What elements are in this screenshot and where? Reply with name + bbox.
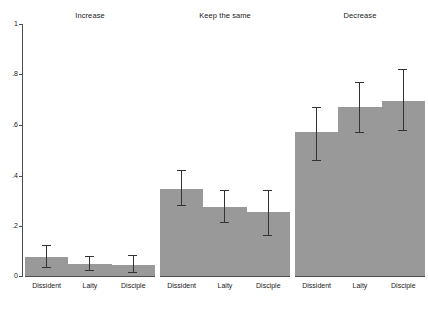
errorbar-cap-top-keep-the-same-disciple [263,190,272,191]
x-label-keep-the-same-dissident: Dissident [160,282,203,289]
errorbar-cap-top-increase-dissident [42,245,51,246]
y-tick-label-04: .4 [0,172,18,179]
errorbar-keep-the-same-disciple [268,190,269,235]
y-tick-mark-06 [19,125,22,126]
y-tick-mark-1 [19,24,22,25]
x-label-keep-the-same-laity: Laity [203,282,246,289]
errorbar-cap-bottom-keep-the-same-laity [220,222,229,223]
errorbar-cap-bottom-decrease-disciple [398,130,407,131]
errorbar-cap-top-increase-disciple [128,255,137,256]
panel-title-increase: Increase [25,11,155,20]
x-axis-line-panel-2 [160,276,290,277]
y-tick-label-06: .6 [0,121,18,128]
y-tick-mark-02 [19,226,22,227]
errorbar-cap-bottom-increase-dissident [42,267,51,268]
errorbar-cap-bottom-keep-the-same-disciple [263,235,272,236]
errorbar-cap-bottom-decrease-laity [355,132,364,133]
errorbar-cap-top-increase-laity [85,256,94,257]
x-label-keep-the-same-disciple: Disciple [247,282,290,289]
errorbar-increase-disciple [133,255,134,273]
x-label-increase-laity: Laity [68,282,111,289]
y-tick-label-08: .8 [0,70,18,77]
y-tick-mark-04 [19,176,22,177]
x-label-decrease-dissident: Dissident [295,282,338,289]
errorbar-cap-top-decrease-laity [355,82,364,83]
y-tick-mark-08 [19,74,22,75]
errorbar-cap-top-decrease-disciple [398,69,407,70]
panel-title-decrease: Decrease [295,11,425,20]
errorbar-keep-the-same-dissident [181,170,182,205]
y-tick-label-0: 0 [0,272,18,279]
y-axis-line [22,24,23,277]
x-label-increase-disciple: Disciple [112,282,155,289]
x-axis-line-panel-3 [295,276,425,277]
errorbar-cap-bottom-decrease-dissident [312,160,321,161]
errorbar-cap-top-keep-the-same-laity [220,190,229,191]
x-label-decrease-disciple: Disciple [382,282,425,289]
y-tick-label-1: 1 [0,20,18,27]
errorbar-increase-laity [89,256,90,270]
errorbar-decrease-disciple [403,69,404,130]
x-label-decrease-laity: Laity [338,282,381,289]
errorbar-cap-top-keep-the-same-dissident [177,170,186,171]
errorbar-increase-dissident [46,245,47,268]
errorbar-decrease-dissident [316,107,317,160]
errorbar-cap-top-decrease-dissident [312,107,321,108]
errorbar-decrease-laity [359,82,360,132]
y-tick-mark-0 [19,276,22,277]
panel-title-keep-the-same: Keep the same [160,11,290,20]
bar-chart: Increase Keep the same Decrease 1 .8 .6 … [0,0,428,309]
errorbar-cap-bottom-increase-disciple [128,272,137,273]
errorbar-cap-bottom-keep-the-same-dissident [177,205,186,206]
y-tick-label-02: .2 [0,222,18,229]
x-label-increase-dissident: Dissident [25,282,68,289]
errorbar-keep-the-same-laity [224,190,225,223]
errorbar-cap-bottom-increase-laity [85,270,94,271]
x-axis-line-panel-1 [25,276,155,277]
